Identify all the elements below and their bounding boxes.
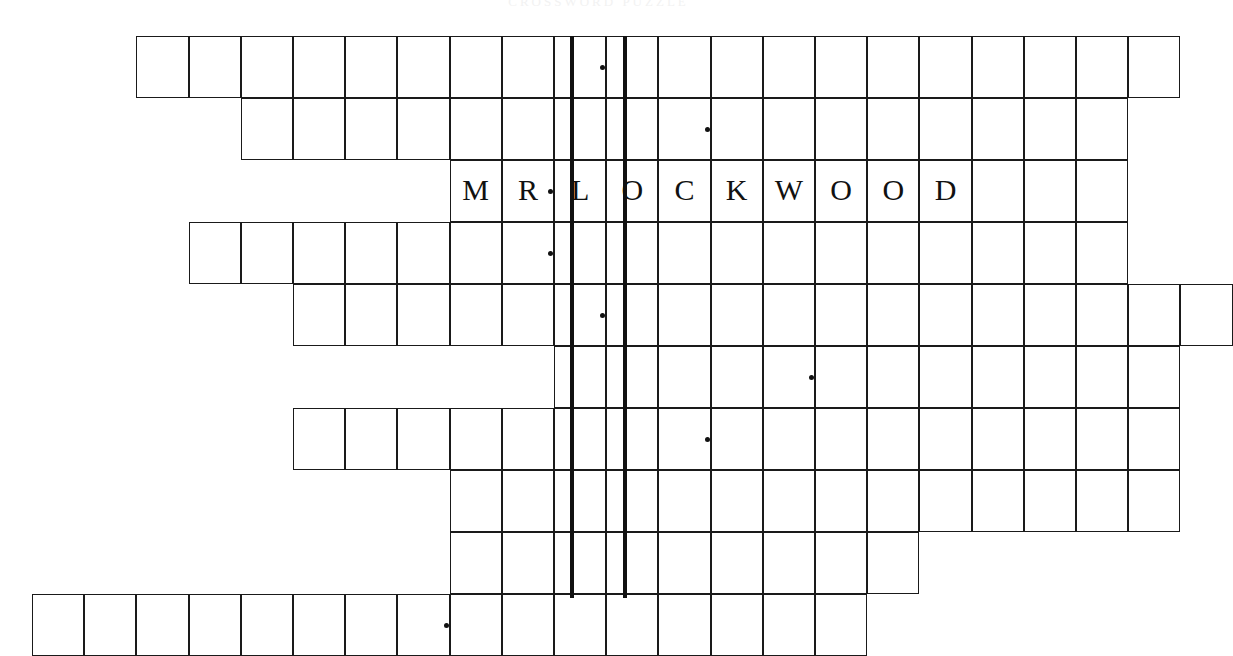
grid-cell[interactable]	[1024, 222, 1076, 284]
grid-cell[interactable]	[867, 532, 919, 594]
grid-cell[interactable]	[345, 284, 397, 346]
grid-cell[interactable]	[763, 98, 815, 160]
grid-cell[interactable]	[711, 408, 763, 470]
grid-cell[interactable]	[1180, 284, 1232, 346]
grid-cell[interactable]	[502, 470, 554, 532]
grid-cell[interactable]	[606, 222, 658, 284]
grid-cell[interactable]	[241, 594, 293, 656]
grid-cell[interactable]	[867, 470, 919, 532]
grid-cell[interactable]	[450, 532, 502, 594]
grid-cell[interactable]	[554, 98, 606, 160]
grid-cell[interactable]	[293, 408, 345, 470]
grid-cell[interactable]	[345, 594, 397, 656]
grid-cell[interactable]	[1128, 284, 1180, 346]
grid-cell[interactable]	[241, 222, 293, 284]
grid-cell[interactable]	[1076, 98, 1128, 160]
grid-cell[interactable]	[815, 408, 867, 470]
grid-cell[interactable]	[397, 36, 449, 98]
grid-cell[interactable]	[293, 98, 345, 160]
grid-cell[interactable]	[763, 408, 815, 470]
grid-cell[interactable]	[1076, 222, 1128, 284]
grid-cell[interactable]	[711, 532, 763, 594]
grid-cell[interactable]	[1076, 284, 1128, 346]
grid-cell[interactable]: K	[711, 160, 763, 222]
grid-cell[interactable]: O	[867, 160, 919, 222]
grid-cell[interactable]	[345, 222, 397, 284]
grid-cell[interactable]	[815, 222, 867, 284]
grid-cell[interactable]	[658, 408, 710, 470]
grid-cell[interactable]	[919, 98, 971, 160]
grid-cell[interactable]	[502, 222, 554, 284]
grid-cell[interactable]	[711, 98, 763, 160]
grid-cell[interactable]	[815, 284, 867, 346]
grid-cell[interactable]	[867, 346, 919, 408]
grid-cell[interactable]	[919, 284, 971, 346]
grid-cell[interactable]	[554, 594, 606, 656]
grid-cell[interactable]	[241, 98, 293, 160]
grid-cell[interactable]	[450, 36, 502, 98]
grid-cell[interactable]	[502, 594, 554, 656]
grid-cell[interactable]	[136, 594, 188, 656]
grid-cell[interactable]	[658, 594, 710, 656]
grid-cell[interactable]	[919, 346, 971, 408]
grid-cell[interactable]	[450, 98, 502, 160]
grid-cell[interactable]: O	[606, 160, 658, 222]
grid-cell[interactable]	[1128, 346, 1180, 408]
grid-cell[interactable]: O	[815, 160, 867, 222]
grid-cell[interactable]	[32, 594, 84, 656]
grid-cell[interactable]	[658, 470, 710, 532]
grid-cell[interactable]	[502, 408, 554, 470]
grid-cell[interactable]	[1128, 408, 1180, 470]
grid-cell[interactable]	[293, 284, 345, 346]
grid-cell[interactable]	[658, 346, 710, 408]
grid-cell[interactable]	[1024, 36, 1076, 98]
grid-cell[interactable]	[554, 222, 606, 284]
grid-cell[interactable]	[1024, 346, 1076, 408]
grid-cell[interactable]	[554, 346, 606, 408]
grid-cell[interactable]	[658, 532, 710, 594]
grid-cell[interactable]	[1128, 36, 1180, 98]
grid-cell[interactable]	[763, 594, 815, 656]
grid-cell[interactable]	[867, 36, 919, 98]
grid-cell[interactable]	[554, 532, 606, 594]
grid-cell[interactable]	[711, 36, 763, 98]
grid-cell[interactable]	[919, 470, 971, 532]
grid-cell[interactable]	[1024, 284, 1076, 346]
grid-cell[interactable]: M	[450, 160, 502, 222]
grid-cell[interactable]: W	[763, 160, 815, 222]
grid-cell[interactable]	[293, 222, 345, 284]
grid-cell[interactable]	[763, 222, 815, 284]
grid-cell[interactable]	[241, 36, 293, 98]
grid-cell[interactable]	[972, 284, 1024, 346]
grid-cell[interactable]	[606, 284, 658, 346]
grid-cell[interactable]	[502, 284, 554, 346]
grid-cell[interactable]	[502, 532, 554, 594]
grid-cell[interactable]	[397, 408, 449, 470]
grid-cell[interactable]	[1024, 470, 1076, 532]
grid-cell[interactable]	[815, 98, 867, 160]
grid-cell[interactable]	[345, 408, 397, 470]
grid-cell[interactable]	[606, 346, 658, 408]
grid-cell[interactable]	[972, 98, 1024, 160]
grid-cell[interactable]	[293, 36, 345, 98]
grid-cell[interactable]	[606, 594, 658, 656]
grid-cell[interactable]	[502, 98, 554, 160]
grid-cell[interactable]	[1076, 36, 1128, 98]
grid-cell[interactable]	[658, 98, 710, 160]
grid-cell[interactable]	[1076, 160, 1128, 222]
grid-cell[interactable]	[606, 470, 658, 532]
grid-cell[interactable]	[554, 284, 606, 346]
grid-cell[interactable]	[397, 222, 449, 284]
grid-cell[interactable]	[554, 470, 606, 532]
grid-cell[interactable]	[1024, 408, 1076, 470]
grid-cell[interactable]	[867, 222, 919, 284]
grid-cell[interactable]	[867, 284, 919, 346]
grid-cell[interactable]	[84, 594, 136, 656]
grid-cell[interactable]	[136, 36, 188, 98]
grid-cell[interactable]	[711, 594, 763, 656]
grid-cell[interactable]	[711, 284, 763, 346]
grid-cell[interactable]	[450, 470, 502, 532]
grid-cell[interactable]: R	[502, 160, 554, 222]
grid-cell[interactable]: C	[658, 160, 710, 222]
